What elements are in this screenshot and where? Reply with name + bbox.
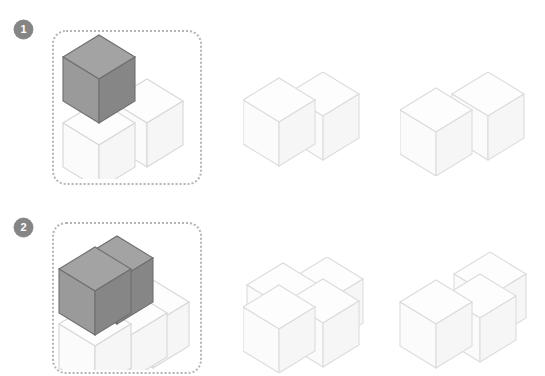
prompt-figure-2 (55, 224, 197, 370)
question-row-1: 1 (0, 0, 545, 200)
option-2b-figure[interactable] (398, 252, 538, 372)
worksheet-page: 1 (0, 0, 545, 376)
question-row-2: 2 (0, 200, 545, 376)
question-number-badge-2: 2 (14, 218, 33, 237)
prompt-figure-1 (55, 33, 197, 179)
option-1a-figure[interactable] (243, 72, 367, 172)
option-1b-figure[interactable] (400, 72, 532, 176)
option-2a-figure[interactable] (243, 257, 375, 373)
question-number-badge-1: 1 (14, 20, 33, 39)
